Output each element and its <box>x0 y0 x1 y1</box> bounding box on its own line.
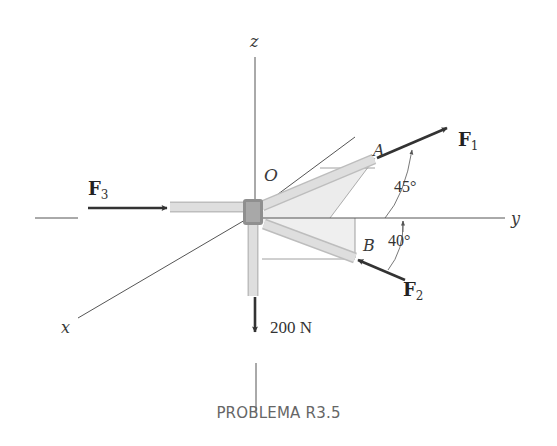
F1-label: F1 <box>458 129 478 153</box>
x-axis <box>78 220 245 318</box>
angle-40-label: 40° <box>388 232 410 249</box>
angle-45-label: 45° <box>394 178 416 195</box>
origin-label: O <box>264 165 278 185</box>
y-axis-label: y <box>510 209 521 228</box>
z-axis-label: z <box>249 32 259 51</box>
force-diagram: z y x O A B F1 F2 F3 200 N 45° 40° <box>0 0 557 446</box>
arrow-F1 <box>377 128 447 158</box>
angle-arcs <box>385 150 412 270</box>
point-B-label: B <box>362 236 375 255</box>
arrow-F2 <box>358 260 405 280</box>
F2-label: F2 <box>403 279 423 303</box>
x-axis-label: x <box>61 318 70 337</box>
weight-label: 200 N <box>270 318 312 337</box>
figure-caption: PROBLEMA R3.5 <box>0 404 557 422</box>
point-A-label: A <box>371 141 385 160</box>
axes <box>35 57 505 412</box>
F3-label: F3 <box>88 178 108 202</box>
